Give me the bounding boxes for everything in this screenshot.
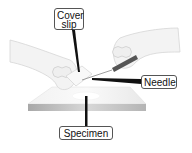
wet-mount-diagram: Cover slip Needle Specimen (0, 0, 192, 153)
cover-slip-label-line2: slip (61, 19, 76, 30)
left-hand (10, 40, 77, 90)
needle-label: Needle (141, 75, 177, 89)
cover-slip-label: Cover slip (54, 8, 84, 30)
right-hand (113, 28, 181, 68)
specimen-label: Specimen (59, 126, 113, 140)
